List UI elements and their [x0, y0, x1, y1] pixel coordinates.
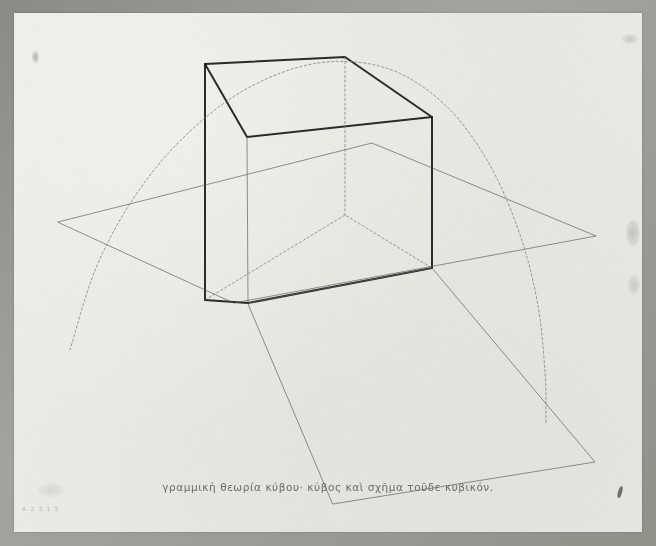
line-parabolic-arc — [70, 61, 546, 424]
line-oblique-ground-plane — [248, 268, 595, 504]
pencil-inventory-note: A 2 3 1 5 — [22, 505, 60, 512]
line-horizontal-plane — [58, 143, 596, 303]
line-cube-top-face — [205, 57, 432, 137]
artwork-page: γραμμικὴ θεωρία κύβου· κύβος καὶ σχῆμα τ… — [0, 0, 656, 546]
geometric-drawing — [0, 0, 656, 546]
line-cube-front-center-vertical — [247, 137, 248, 303]
figure-caption: γραμμικὴ θεωρία κύβου· κύβος καὶ σχῆμα τ… — [0, 481, 656, 493]
